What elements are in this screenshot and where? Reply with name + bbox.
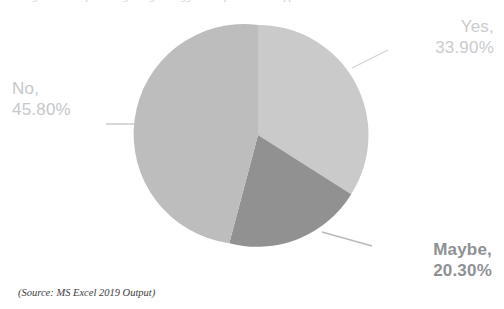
data-label-maybe-name: Maybe,: [433, 239, 492, 260]
data-label-yes: Yes, 33.90%: [435, 16, 494, 58]
data-label-maybe-value: 20.30%: [433, 260, 492, 281]
leader-line-maybe: [322, 232, 372, 246]
data-label-yes-value: 33.90%: [435, 37, 494, 58]
leader-line-yes: [352, 50, 388, 68]
pie-chart-graphic: [0, 0, 504, 309]
pie-chart: Yes, 33.90% No, 45.80% Maybe, 20.30%: [0, 0, 504, 309]
data-label-no-value: 45.80%: [12, 99, 71, 120]
data-label-maybe: Maybe, 20.30%: [433, 239, 492, 281]
data-label-no-name: No,: [12, 78, 71, 99]
source-note: (Source: MS Excel 2019 Output): [18, 287, 155, 298]
data-label-yes-name: Yes,: [435, 16, 494, 37]
data-label-no: No, 45.80%: [12, 78, 71, 120]
